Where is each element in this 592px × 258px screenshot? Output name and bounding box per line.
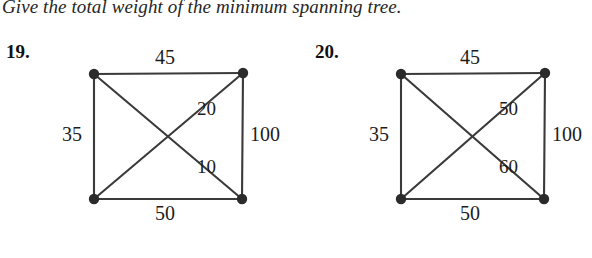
edge-label-left: 35: [62, 124, 82, 144]
edge-label-diagonal-down: 60: [499, 157, 518, 177]
vertex-top-left: [89, 69, 99, 79]
edge-right: [242, 73, 243, 199]
edge-right: [544, 73, 545, 199]
edge-label-diagonal-up: 20: [197, 99, 216, 119]
edge-label-left: 35: [369, 124, 389, 144]
graph-20: 45 35 100 50 50 60: [300, 0, 592, 258]
edge-label-right: 100: [552, 124, 582, 144]
vertex-bottom-left: [396, 194, 406, 204]
problem-19: 19. 45 35 100 50 20 10: [0, 0, 300, 258]
vertex-bottom-right: [237, 194, 247, 204]
edge-top: [94, 73, 243, 74]
edge-label-diagonal-down: 10: [197, 157, 216, 177]
graph-19: 45 35 100 50 20 10: [0, 0, 300, 258]
edge-label-bottom: 50: [460, 203, 480, 223]
edge-label-top: 45: [155, 47, 175, 67]
graph-19-edges: [94, 73, 243, 199]
edge-label-diagonal-up: 50: [499, 99, 518, 119]
vertex-bottom-left: [89, 194, 99, 204]
edge-label-top: 45: [460, 47, 480, 67]
vertex-top-right: [540, 68, 550, 78]
vertex-top-right: [238, 68, 248, 78]
edge-label-right: 100: [250, 124, 280, 144]
vertex-bottom-right: [539, 194, 549, 204]
edge-top: [401, 73, 545, 74]
graph-20-edges: [401, 73, 545, 199]
vertex-top-left: [396, 69, 406, 79]
edge-label-bottom: 50: [155, 203, 175, 223]
problem-20: 20. 45 35 100 50 50 60: [300, 0, 592, 258]
